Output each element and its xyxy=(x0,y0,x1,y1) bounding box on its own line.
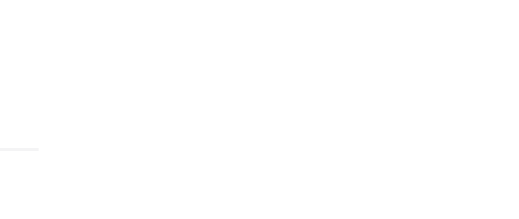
chart-svg xyxy=(95,8,519,219)
y-axis-tick-labels xyxy=(58,0,93,219)
plot-area xyxy=(95,8,519,219)
chart-root xyxy=(0,0,519,219)
decorative-edge-shape xyxy=(0,148,39,219)
